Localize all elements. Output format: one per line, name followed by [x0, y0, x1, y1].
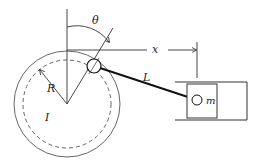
crank-slider-diagram: θ x L R I m	[0, 0, 259, 162]
x-label: x	[152, 43, 159, 56]
m-label: m	[206, 95, 215, 106]
theta-label: θ	[92, 14, 99, 27]
R-label: R	[46, 82, 55, 95]
L-label: L	[142, 71, 150, 84]
theta-angle-arc	[67, 26, 109, 42]
piston-pin	[192, 95, 202, 105]
I-label: I	[44, 111, 50, 124]
